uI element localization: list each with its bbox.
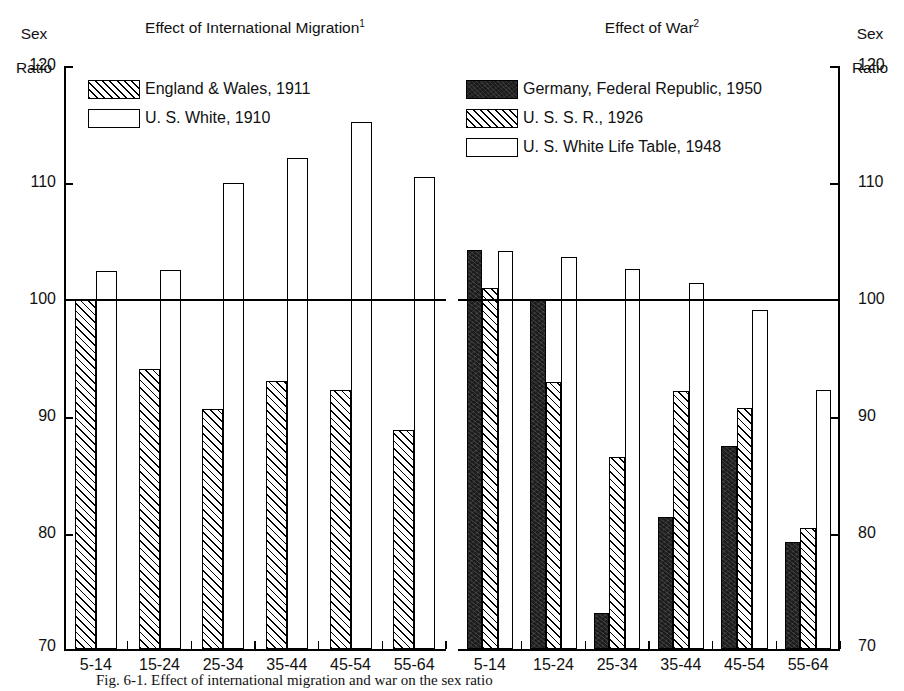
x-axis-tick: [585, 641, 587, 649]
x-axis-tick: [382, 641, 384, 649]
x-axis-tick: [648, 641, 650, 649]
x-axis-tick: [445, 641, 447, 649]
x-axis-tick: [254, 641, 256, 649]
category-labels: 5-1415-2425-3435-4445-5455-645-1415-2425…: [0, 0, 904, 691]
figure-sex-ratio-bar-chart: Sex Ratio Sex Ratio Effect of Internatio…: [0, 0, 904, 691]
x-axis-tick: [318, 641, 320, 649]
x-axis-tick: [839, 641, 841, 649]
figure-caption: Fig. 6-1. Effect of international migrat…: [96, 672, 493, 689]
x-axis-tick: [712, 641, 714, 649]
x-axis-tick: [191, 641, 193, 649]
x-axis-tick: [776, 641, 778, 649]
x-axis-category-label: 55-64: [768, 656, 848, 674]
x-axis-tick: [127, 641, 129, 649]
x-axis-tick: [521, 641, 523, 649]
